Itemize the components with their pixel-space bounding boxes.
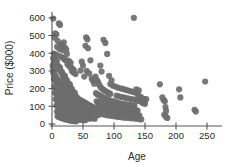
data-point (100, 37, 106, 43)
data-point (79, 59, 85, 65)
x-tick-label: 100 (106, 130, 122, 141)
data-point (138, 116, 144, 122)
plot-canvas: 0100200300400500600 050100150200250 Age … (0, 0, 229, 167)
data-point (193, 109, 199, 115)
x-tick-label: 0 (49, 130, 54, 141)
data-point (72, 71, 78, 77)
y-axis-title: Price ($000) (4, 41, 15, 95)
data-point (92, 116, 98, 122)
y-tick-label: 200 (29, 83, 45, 94)
data-point (142, 101, 148, 107)
x-axis-title: Age (128, 151, 146, 162)
data-point (202, 78, 208, 84)
scatter-plot-figure: 0100200300400500600 050100150200250 Age … (0, 0, 229, 167)
y-tick-label: 0 (40, 118, 45, 129)
data-point (87, 57, 93, 63)
x-tick-label: 50 (78, 130, 89, 141)
y-tick-label: 600 (29, 12, 45, 23)
data-point (107, 91, 113, 97)
data-point (99, 69, 105, 75)
data-point (177, 94, 183, 100)
y-tick-label: 300 (29, 65, 45, 76)
data-point (131, 15, 137, 21)
y-tick-label: 400 (29, 48, 45, 59)
data-point (97, 62, 103, 68)
data-point (164, 115, 170, 121)
data-point (136, 87, 142, 93)
data-point (81, 73, 87, 79)
data-point (176, 86, 182, 92)
data-point (61, 39, 67, 45)
x-tick-label: 250 (199, 130, 215, 141)
data-point (104, 51, 110, 57)
data-point (50, 15, 56, 21)
data-point (54, 44, 60, 50)
x-tick-label: 200 (168, 130, 184, 141)
y-tick-label: 500 (29, 30, 45, 41)
data-point (84, 36, 90, 42)
data-point (85, 45, 91, 51)
data-point (162, 98, 168, 104)
x-tick-label: 150 (137, 130, 153, 141)
data-point (64, 51, 70, 57)
data-point (82, 117, 88, 123)
data-point (73, 118, 79, 124)
data-point (157, 81, 163, 87)
data-point (57, 22, 63, 28)
data-point (138, 94, 144, 100)
y-tick-label: 100 (29, 101, 45, 112)
data-point (77, 67, 83, 73)
